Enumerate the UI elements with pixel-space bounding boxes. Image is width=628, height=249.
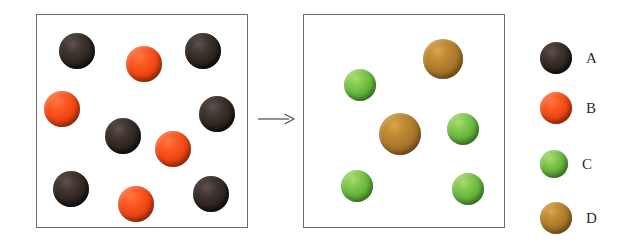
sphere-a <box>185 33 221 69</box>
particle-reaction-figure: ABCD <box>0 0 628 249</box>
sphere-c <box>341 170 373 202</box>
sphere-a <box>105 118 141 154</box>
legend-swatch-b <box>540 92 572 124</box>
sphere-b <box>155 131 191 167</box>
legend-row-b: B <box>528 91 620 125</box>
legend-row-a: A <box>528 41 620 75</box>
sphere-a <box>199 96 235 132</box>
sphere-a <box>59 33 95 69</box>
legend-label-b: B <box>586 101 596 116</box>
sphere-c <box>452 173 484 205</box>
legend-swatch-a <box>540 42 572 74</box>
species-legend: ABCD <box>528 14 620 228</box>
legend-swatch-c <box>540 150 568 178</box>
legend-label-c: C <box>582 157 592 172</box>
reaction-arrow-icon <box>258 112 296 126</box>
legend-label-a: A <box>586 51 597 66</box>
sphere-b <box>118 186 154 222</box>
sphere-a <box>53 171 89 207</box>
reaction-arrow <box>258 112 296 126</box>
legend-label-d: D <box>586 211 597 226</box>
sphere-c <box>447 113 479 145</box>
sphere-b <box>126 46 162 82</box>
sphere-d <box>379 113 421 155</box>
sphere-c <box>344 69 376 101</box>
sphere-b <box>44 91 80 127</box>
sphere-a <box>193 176 229 212</box>
legend-row-d: D <box>528 201 620 235</box>
legend-row-c: C <box>528 147 620 181</box>
sphere-d <box>423 39 463 79</box>
legend-swatch-d <box>540 202 572 234</box>
